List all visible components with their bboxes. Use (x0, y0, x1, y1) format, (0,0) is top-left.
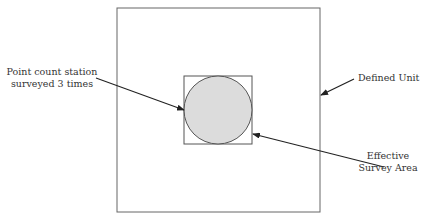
area-label-line1: Effective (357, 150, 419, 162)
unit-label: Defined Unit (358, 72, 419, 84)
area-label: Effective Survey Area (357, 150, 419, 174)
diagram-canvas (0, 0, 421, 221)
station-label-line2: surveyed 3 times (4, 78, 100, 90)
station-label: Point count station surveyed 3 times (4, 66, 100, 90)
unit-label-text: Defined Unit (358, 72, 419, 84)
area-label-line2: Survey Area (357, 162, 419, 174)
unit-arrow (321, 79, 354, 95)
effective-survey-circle (184, 76, 252, 144)
station-label-line1: Point count station (4, 66, 100, 78)
station-arrow (96, 78, 184, 110)
